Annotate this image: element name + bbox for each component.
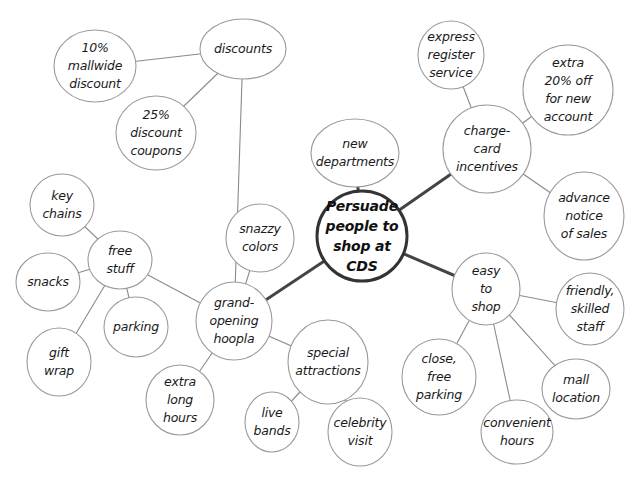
node-charge-card-incentives xyxy=(443,105,531,193)
node-new-departments xyxy=(311,119,399,187)
node-mallwide-discount xyxy=(54,30,136,102)
node-key-chains xyxy=(30,174,94,236)
edge-grand-opening-hoopla-to-discounts xyxy=(234,49,243,321)
node-mall-location xyxy=(542,359,610,419)
node-convenient-hours xyxy=(481,400,553,464)
node-celebrity-visit xyxy=(328,398,392,466)
node-parking xyxy=(104,297,168,357)
nodes-layer xyxy=(16,19,624,466)
node-center xyxy=(317,191,407,281)
node-free-stuff xyxy=(88,231,152,289)
node-gift-wrap xyxy=(27,328,91,396)
node-snazzy-colors xyxy=(226,204,294,272)
node-snacks xyxy=(16,253,80,311)
node-extra-long-hours xyxy=(146,365,214,435)
node-advance-notice xyxy=(544,172,624,260)
node-discounts xyxy=(200,19,286,79)
node-grand-opening-hoopla xyxy=(196,282,272,360)
node-special-attractions xyxy=(288,320,368,404)
node-live-bands xyxy=(245,392,299,452)
node-extra-20-off xyxy=(523,45,613,135)
node-express-register-service xyxy=(418,21,484,89)
node-close-free-parking xyxy=(402,339,476,415)
node-easy-to-shop xyxy=(452,253,520,325)
node-friendly-staff xyxy=(556,273,624,345)
node-discount-coupons xyxy=(116,96,196,170)
mind-map-canvas xyxy=(0,0,641,488)
